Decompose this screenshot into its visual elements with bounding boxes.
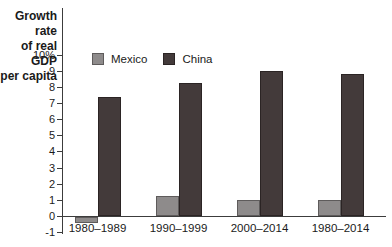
y-tick-1 <box>57 200 62 201</box>
legend: MexicoChina <box>92 53 229 65</box>
bar-mexico-1990-1999 <box>156 196 179 217</box>
bar-china-1990-1999 <box>179 83 202 217</box>
y-tick-label-8: 8 <box>15 82 55 93</box>
y-tick-label-3: 3 <box>15 163 55 174</box>
bar-china-2000-2014 <box>260 71 283 216</box>
y-tick-label-4: 4 <box>15 146 55 157</box>
y-tick-label-1: 1 <box>15 195 55 206</box>
x-axis-label-1980-2014: 1980–2014 <box>296 222 386 234</box>
bar-china-1980-2014 <box>341 74 364 216</box>
y-tick-label-6: 6 <box>15 114 55 125</box>
legend-item-china: China <box>163 53 212 65</box>
y-tick-8 <box>57 87 62 88</box>
y-tick-6 <box>57 119 62 120</box>
y-tick-label-10: 10% <box>15 50 55 61</box>
bar-china-1980-1989 <box>98 97 121 216</box>
y-tick-9 <box>57 71 62 72</box>
legend-item-mexico: Mexico <box>92 53 147 65</box>
y-tick-label--1: -1 <box>15 227 55 238</box>
y-tick-3 <box>57 168 62 169</box>
x-axis-label-1990-1999: 1990–1999 <box>134 222 224 234</box>
x-axis-zero-line <box>62 216 386 217</box>
bar-mexico-2000-2014 <box>237 200 260 216</box>
gdp-growth-per-capita-chart: Growth rate of real GDP per capita 10%98… <box>0 0 392 247</box>
bar-mexico-1980-1989 <box>75 217 98 223</box>
y-tick-label-0: 0 <box>15 211 55 222</box>
y-tick-4 <box>57 151 62 152</box>
y-tick-label-5: 5 <box>15 130 55 141</box>
legend-swatch-mexico <box>92 53 104 65</box>
legend-label-mexico: Mexico <box>111 53 147 65</box>
y-tick-2 <box>57 184 62 185</box>
y-tick-10 <box>57 55 62 56</box>
y-tick-5 <box>57 135 62 136</box>
x-axis-label-1980-1989: 1980–1989 <box>53 222 143 234</box>
bar-mexico-1980-2014 <box>318 200 341 216</box>
y-tick-7 <box>57 103 62 104</box>
y-tick-label-2: 2 <box>15 179 55 190</box>
x-axis-label-2000-2014: 2000–2014 <box>215 222 305 234</box>
y-tick-label-7: 7 <box>15 98 55 109</box>
y-axis-title-line-1: Growth rate <box>0 9 57 39</box>
legend-label-china: China <box>182 53 212 65</box>
y-tick-label-9: 9 <box>15 66 55 77</box>
legend-swatch-china <box>163 53 175 65</box>
y-axis-line <box>62 8 63 234</box>
